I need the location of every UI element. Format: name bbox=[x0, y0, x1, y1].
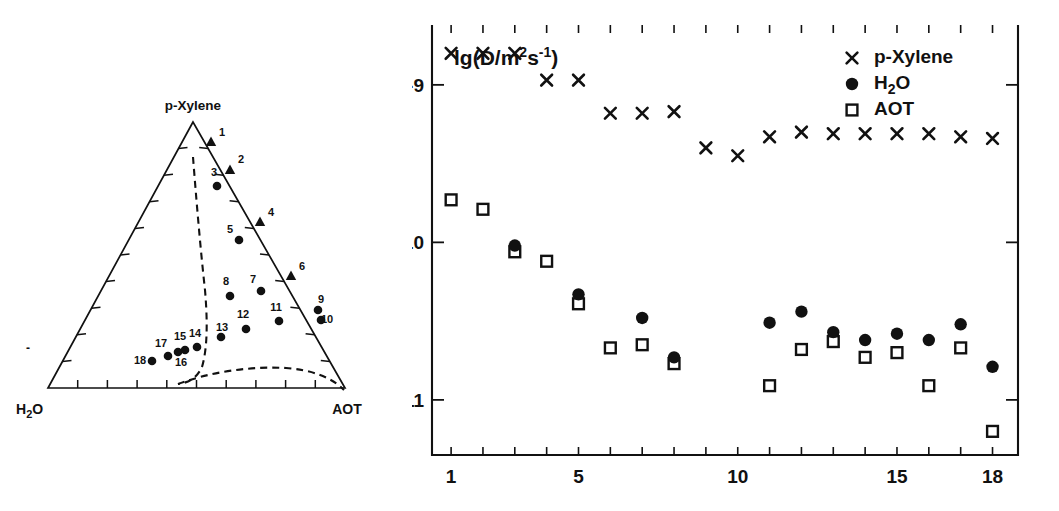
data-point-marker bbox=[923, 334, 935, 346]
ternary-point-label: 6 bbox=[299, 260, 305, 272]
data-point-marker bbox=[986, 361, 998, 373]
data-point-marker bbox=[892, 347, 903, 358]
ternary-point-label: 15 bbox=[174, 330, 186, 342]
figure-container: 123456789101112131415161718p-XyleneH2OAO… bbox=[0, 0, 1059, 511]
y-axis-tick-label: -11 bbox=[412, 390, 424, 411]
ternary-point-marker bbox=[164, 352, 173, 361]
data-point-marker bbox=[446, 194, 457, 205]
data-point-marker bbox=[637, 108, 648, 119]
x-axis-tick-label: 18 bbox=[982, 466, 1003, 487]
legend-marker-aot bbox=[847, 105, 858, 116]
data-point-marker bbox=[955, 342, 966, 353]
y-axis-tick-label: -9 bbox=[412, 75, 424, 96]
ternary-tick-left bbox=[135, 227, 144, 228]
ternary-point-label: 7 bbox=[250, 273, 256, 285]
data-point-marker bbox=[605, 342, 616, 353]
ternary-point-marker bbox=[255, 216, 265, 226]
x-axis-tick-label: 15 bbox=[886, 466, 908, 487]
data-point-marker bbox=[923, 380, 934, 391]
ternary-point-marker bbox=[148, 357, 157, 366]
data-point-marker bbox=[860, 128, 871, 139]
ternary-tick-left bbox=[150, 201, 159, 202]
ternary-point-label: 17 bbox=[155, 337, 167, 349]
ternary-vertex-label-top: p-Xylene bbox=[165, 98, 222, 113]
data-point-marker bbox=[955, 131, 966, 142]
ternary-point-label: 16 bbox=[175, 356, 187, 368]
ternary-point-label: 14 bbox=[189, 327, 202, 339]
y-axis-tick-label: -10 bbox=[412, 232, 424, 253]
ternary-point-marker bbox=[217, 333, 226, 342]
ternary-tick-left bbox=[179, 148, 188, 149]
ternary-tick-right bbox=[260, 254, 269, 255]
ternary-point-label: 9 bbox=[318, 293, 324, 305]
data-point-marker bbox=[828, 128, 839, 139]
x-axis-tick-label: 10 bbox=[727, 466, 748, 487]
series-aot bbox=[446, 194, 998, 436]
ternary-tick-left bbox=[92, 307, 101, 308]
data-point-marker bbox=[573, 75, 584, 86]
data-point-marker bbox=[732, 150, 743, 161]
data-point-marker bbox=[700, 142, 711, 153]
ternary-phase-diagram: 123456789101112131415161718p-XyleneH2OAO… bbox=[0, 35, 400, 505]
ternary-point-marker bbox=[226, 292, 235, 301]
ternary-point-label: 3 bbox=[211, 166, 217, 178]
data-point-marker bbox=[795, 305, 807, 317]
x-axis-tick-label: 1 bbox=[446, 466, 457, 487]
phase-boundary-bottom bbox=[178, 368, 344, 390]
data-point-marker bbox=[954, 318, 966, 330]
ternary-vertex-label-left: H2O bbox=[16, 401, 43, 420]
chart-legend: p-XyleneH2OAOT bbox=[846, 46, 953, 119]
data-point-marker bbox=[637, 339, 648, 350]
ternary-point-marker bbox=[206, 136, 216, 146]
ternary-point-marker bbox=[242, 325, 251, 334]
data-point-marker bbox=[891, 328, 903, 340]
ternary-tick-right bbox=[230, 201, 239, 202]
data-point-marker bbox=[764, 131, 775, 142]
ternary-tick-right bbox=[290, 307, 299, 308]
ternary-point-label: 12 bbox=[237, 308, 249, 320]
ternary-point-label: 10 bbox=[321, 313, 333, 325]
ternary-point-label: 5 bbox=[227, 223, 233, 235]
data-point-marker bbox=[859, 334, 871, 346]
ternary-point-marker bbox=[174, 348, 183, 357]
data-point-marker bbox=[796, 344, 807, 355]
ternary-point-label: 4 bbox=[268, 206, 275, 218]
y-axis-label: lg(D/m2s-1) bbox=[454, 44, 558, 69]
ternary-point-marker bbox=[235, 236, 244, 245]
data-point-marker bbox=[764, 380, 775, 391]
data-point-marker bbox=[572, 288, 584, 300]
ternary-stray-mark: - bbox=[26, 341, 30, 355]
ternary-point-marker bbox=[275, 317, 284, 326]
ternary-tick-right bbox=[199, 148, 208, 149]
x-axis-tick-label: 5 bbox=[573, 466, 584, 487]
data-point-marker bbox=[987, 426, 998, 437]
legend-marker-p-xylene bbox=[847, 53, 858, 64]
ternary-tick-right bbox=[321, 360, 330, 361]
ternary-tick-right bbox=[245, 227, 254, 228]
ternary-tick-left bbox=[63, 360, 72, 361]
ternary-point-label: 13 bbox=[216, 321, 228, 333]
legend-label: H2O bbox=[874, 72, 910, 97]
ternary-point-marker bbox=[286, 270, 296, 280]
data-point-marker bbox=[541, 256, 552, 267]
legend-label: AOT bbox=[874, 98, 915, 119]
data-point-marker bbox=[605, 108, 616, 119]
ternary-tick-right bbox=[275, 281, 284, 282]
ternary-tick-left bbox=[164, 174, 173, 175]
data-point-marker bbox=[636, 312, 648, 324]
ternary-point-label: 18 bbox=[134, 354, 146, 366]
data-point-marker bbox=[923, 128, 934, 139]
data-point-marker bbox=[796, 127, 807, 138]
ternary-point-label: 8 bbox=[223, 275, 229, 287]
ternary-tick-right bbox=[306, 334, 315, 335]
diffusion-scatter-chart: 15101518-9-10-11lg(D/m2s-1)p-XyleneH2OAO… bbox=[412, 0, 1052, 511]
data-point-marker bbox=[478, 204, 489, 215]
legend-label: p-Xylene bbox=[874, 46, 953, 67]
ternary-point-label: 1 bbox=[219, 126, 225, 138]
data-point-marker bbox=[987, 133, 998, 144]
ternary-point-marker bbox=[193, 343, 202, 352]
data-point-marker bbox=[860, 352, 871, 363]
ternary-tick-left bbox=[106, 281, 115, 282]
ternary-point-label: 2 bbox=[238, 153, 244, 165]
ternary-vertex-label-right: AOT bbox=[332, 401, 362, 417]
